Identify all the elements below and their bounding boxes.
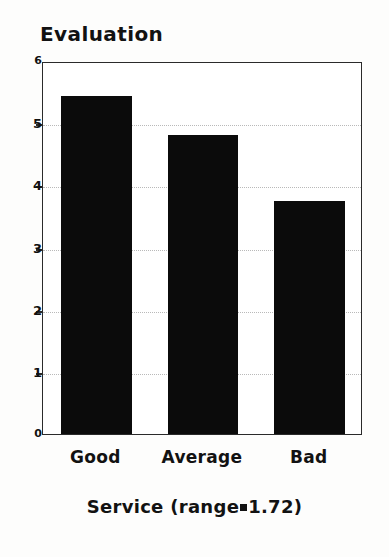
y-axis: 0123456 [0, 0, 42, 557]
bar-chart: Evaluation 0123456 GoodAverageBad Servic… [0, 0, 389, 557]
x-axis-title-suffix: 1.72) [248, 496, 302, 517]
y-tick-label: 4 [14, 179, 42, 192]
chart-title: Evaluation [40, 22, 163, 46]
x-axis-category-labels: GoodAverageBad [42, 447, 362, 477]
y-tick-label: 0 [14, 428, 42, 439]
x-tick-label-good: Good [42, 447, 149, 467]
x-axis-title: Service (range1.72) [0, 496, 389, 517]
bar-bad [274, 201, 345, 434]
equals-box-glyph [240, 504, 247, 511]
bar-average [168, 135, 239, 434]
x-tick-label-bad: Bad [255, 447, 362, 467]
bar-good [61, 96, 132, 434]
x-axis-title-prefix: Service (range [87, 496, 239, 517]
plot-area [42, 62, 362, 435]
y-tick-label: 5 [14, 117, 42, 130]
y-tick-label: 3 [14, 242, 42, 255]
x-tick-label-average: Average [149, 447, 256, 467]
y-tick-label: 1 [14, 366, 42, 379]
y-tick-label: 2 [14, 304, 42, 317]
y-tick-label: 6 [14, 55, 42, 66]
